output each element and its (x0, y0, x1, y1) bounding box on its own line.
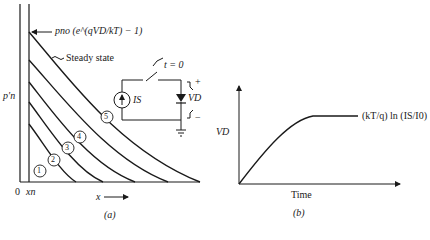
steady-state-label: Steady state (66, 53, 114, 63)
caption-a: (a) (104, 210, 116, 220)
source-label: IS (133, 95, 141, 105)
curve-number-5: 5 (104, 113, 108, 121)
origin-label: 0 (15, 187, 20, 197)
x-axis-label-b: Time (291, 190, 312, 200)
curve-number-1: 1 (37, 167, 41, 175)
curve-number-4: 4 (77, 133, 81, 141)
plateau-label: (kT/q) ln (IS/I0) (362, 111, 427, 121)
y-axis-label-b: VD (216, 127, 229, 137)
switch-pointer (153, 58, 163, 66)
xn-label: xn (26, 187, 35, 197)
boundary-label: pno (e^(qVD/kT) − 1) (55, 26, 142, 36)
plus-sign: + (195, 77, 201, 87)
diode-icon (176, 94, 186, 102)
curve-number-2: 2 (51, 156, 55, 164)
steady-state-pointer (52, 57, 64, 60)
curve-number-3: 3 (65, 144, 69, 152)
y-axis-label-a: p′n (3, 91, 15, 101)
vd-bracket-bot (187, 110, 193, 118)
panel-b-axes (239, 86, 400, 184)
vd-bracket-top (187, 82, 193, 90)
vd-curve (239, 116, 358, 184)
minus-sign: − (195, 113, 201, 123)
x-axis-label: x (96, 192, 100, 202)
curve-number-circles (34, 111, 113, 177)
caption-b: (b) (293, 208, 305, 218)
switch-label: t = 0 (164, 60, 184, 70)
diode-label: VD (188, 93, 201, 103)
